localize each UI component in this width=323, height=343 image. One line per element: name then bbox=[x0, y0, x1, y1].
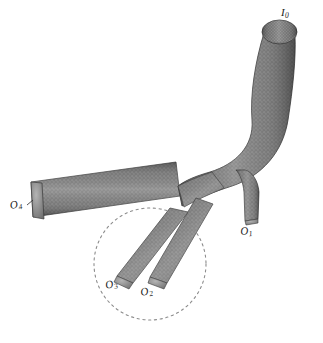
outlet-label-o1: O1 bbox=[240, 225, 253, 238]
outlet-label-o4: O4 bbox=[9, 198, 23, 212]
inlet-label-i0: I0 bbox=[281, 7, 289, 19]
inlet-label-i0-subscript: 0 bbox=[285, 11, 289, 20]
outlet-label-o3: O3 bbox=[104, 277, 119, 292]
vessel-mesh-figure bbox=[0, 0, 323, 343]
outlet-label-o1-subscript: 1 bbox=[248, 228, 253, 237]
outlet-label-o2: O2 bbox=[139, 285, 153, 299]
